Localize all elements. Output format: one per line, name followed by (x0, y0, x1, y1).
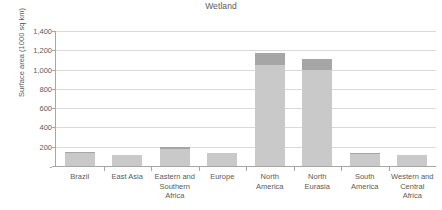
bar-segment-lower[interactable] (350, 154, 380, 166)
y-tick-mark (52, 31, 56, 32)
x-axis-label-line: North (246, 172, 294, 182)
x-axis-label: Eastern andSouthernAfrica (151, 172, 199, 201)
y-tick-mark (52, 127, 56, 128)
x-tick-mark (246, 167, 247, 171)
x-axis-category-labels: BrazilEast AsiaEastern andSouthernAfrica… (56, 172, 436, 210)
bar-stack[interactable] (207, 153, 237, 167)
x-axis-label-line: Western and (389, 172, 437, 182)
x-axis-label-line: North (294, 172, 342, 182)
bar-slot (246, 31, 294, 166)
bar-segment-lower[interactable] (255, 65, 285, 166)
x-axis-label-line: Southern (151, 182, 199, 192)
y-tick-label: - (8, 162, 52, 171)
y-tick-mark (52, 89, 56, 90)
bar-segment-lower[interactable] (207, 153, 237, 167)
x-axis-label: SouthAmerica (341, 172, 389, 191)
bar-stack[interactable] (160, 147, 190, 166)
bar-stack[interactable] (65, 152, 95, 166)
x-axis-label: Western andCentralAfrica (389, 172, 437, 201)
x-axis-label: Brazil (56, 172, 104, 182)
x-axis-label-line: Europe (199, 172, 247, 182)
y-tick-mark (52, 147, 56, 148)
bar-segment-lower[interactable] (65, 153, 95, 166)
y-tick-mark (52, 166, 56, 167)
y-tick-label: 400 (8, 123, 52, 132)
y-tick-label: 600 (8, 104, 52, 113)
y-axis-tick-labels: 1,4001,2001,000800600400200- (4, 0, 52, 210)
bar-segment-lower[interactable] (112, 155, 142, 166)
bar-stack[interactable] (112, 155, 142, 166)
y-tick-label: 800 (8, 84, 52, 93)
bar-segment-lower[interactable] (160, 149, 190, 166)
bar-segment-lower[interactable] (397, 155, 427, 166)
x-axis-label-line: Eurasia (294, 182, 342, 192)
bar-stack[interactable] (302, 59, 332, 166)
x-axis-label-line: America (341, 182, 389, 192)
x-tick-mark (199, 167, 200, 171)
x-axis-label: Europe (199, 172, 247, 182)
x-axis-label-line: Central (389, 182, 437, 192)
bar-slot (389, 31, 437, 166)
y-tick-label: 200 (8, 142, 52, 151)
chart-title: Wetland (0, 1, 442, 11)
y-tick-mark (52, 108, 56, 109)
bars-layer (56, 31, 436, 166)
x-tick-mark (389, 167, 390, 171)
y-tick-label: 1,200 (8, 46, 52, 55)
x-axis-label-line: East Asia (104, 172, 152, 182)
y-tick-mark (52, 70, 56, 71)
bar-segment-lower[interactable] (302, 70, 332, 166)
bar-slot (104, 31, 152, 166)
bar-segment-upper[interactable] (255, 53, 285, 65)
bar-slot (199, 31, 247, 166)
x-axis-label: NorthAmerica (246, 172, 294, 191)
x-tick-mark (294, 167, 295, 171)
bar-segment-upper[interactable] (302, 59, 332, 70)
y-tick-mark (52, 50, 56, 51)
wetland-bar-chart: Wetland Surface area (1000 sq km) 1,4001… (0, 0, 442, 210)
x-axis-label: NorthEurasia (294, 172, 342, 191)
x-axis-label-line: Africa (151, 191, 199, 201)
x-axis-label-line: America (246, 182, 294, 192)
bar-stack[interactable] (397, 155, 427, 166)
x-axis-label: East Asia (104, 172, 152, 182)
bar-slot (151, 31, 199, 166)
x-axis-label-line: Eastern and (151, 172, 199, 182)
y-tick-label: 1,400 (8, 27, 52, 36)
bar-slot (56, 31, 104, 166)
x-axis-label-line: Brazil (56, 172, 104, 182)
bar-stack[interactable] (350, 153, 380, 166)
bar-stack[interactable] (255, 53, 285, 166)
x-tick-mark (104, 167, 105, 171)
x-axis-label-line: South (341, 172, 389, 182)
bar-slot (294, 31, 342, 166)
x-tick-mark (151, 167, 152, 171)
x-tick-mark (341, 167, 342, 171)
x-axis-label-line: Africa (389, 191, 437, 201)
bar-slot (341, 31, 389, 166)
y-tick-label: 1,000 (8, 65, 52, 74)
